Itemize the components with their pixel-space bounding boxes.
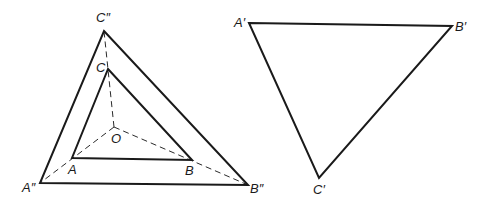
label-c2: C″ bbox=[96, 10, 110, 25]
label-a1: A′ bbox=[233, 15, 246, 30]
label-c1: C′ bbox=[313, 182, 325, 197]
triangle-abc bbox=[72, 69, 192, 160]
ray-o-c2 bbox=[104, 31, 114, 127]
triangle-a1b1c1 bbox=[249, 23, 452, 178]
label-a2: A″ bbox=[21, 180, 36, 195]
label-b: B bbox=[185, 163, 194, 178]
ray-o-b2 bbox=[114, 127, 248, 185]
diagram-canvas: C″ C O A B A″ B″ A′ B′ C′ bbox=[0, 0, 487, 208]
label-c: C bbox=[96, 60, 106, 75]
label-o: O bbox=[111, 131, 121, 146]
label-a: A bbox=[67, 162, 77, 177]
label-b2: B″ bbox=[250, 181, 264, 196]
label-b1: B′ bbox=[455, 19, 467, 34]
